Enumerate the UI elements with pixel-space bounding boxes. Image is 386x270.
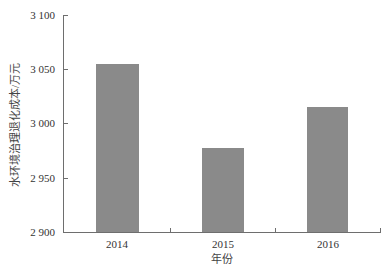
x-axis-title: 年份 [211, 250, 233, 266]
x-tick-label: 2014 [92, 238, 142, 250]
bar-chart: 3 100 3 050 3 000 2 950 2 900 2014 2015 … [0, 0, 386, 270]
x-tick [275, 228, 276, 232]
y-tick [64, 15, 68, 16]
bar-2015 [202, 148, 244, 232]
bar-2016 [307, 107, 348, 232]
y-axis-line [63, 15, 64, 233]
y-tick-label: 2 900 [11, 226, 55, 238]
x-tick-label: 2016 [303, 238, 353, 250]
y-tick [64, 178, 68, 179]
y-tick-label: 3 100 [11, 9, 55, 21]
y-tick [64, 69, 68, 70]
y-tick [64, 123, 68, 124]
y-axis-title: 水环境治理退化成本/万元 [6, 63, 22, 187]
x-axis-line [63, 232, 381, 233]
bar-2014 [96, 64, 139, 232]
x-tick [170, 228, 171, 232]
x-tick [380, 228, 381, 232]
x-tick-label: 2015 [198, 238, 248, 250]
